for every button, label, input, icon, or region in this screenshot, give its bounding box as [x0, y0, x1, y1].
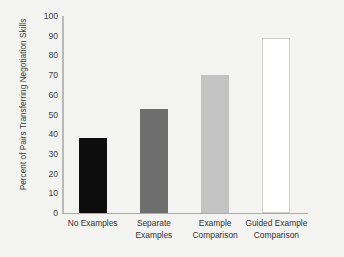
y-tick-label: 0 [34, 208, 58, 218]
bar [79, 138, 107, 213]
bar-chart: Percent of Pairs Transferring Negotiatio… [0, 0, 344, 257]
x-category-label-line: Comparison [240, 230, 313, 242]
y-tick-label: 100 [34, 11, 58, 21]
plot-area [62, 16, 307, 213]
bar [201, 75, 229, 213]
y-tick-label: 10 [34, 188, 58, 198]
y-tick-label: 20 [34, 169, 58, 179]
y-axis-tick-labels: 0102030405060708090100 [32, 0, 58, 257]
y-tick-label: 50 [34, 110, 58, 120]
y-tick-label: 90 [34, 31, 58, 41]
x-category-label-line: Guided Example [240, 218, 313, 230]
y-tick-label: 40 [34, 129, 58, 139]
x-category-label: Guided ExampleComparison [240, 218, 313, 241]
y-tick-label: 60 [34, 90, 58, 100]
bar [262, 38, 290, 213]
bar [140, 109, 168, 213]
y-tick-label: 80 [34, 50, 58, 60]
y-axis-title: Percent of Pairs Transferring Negotiatio… [19, 0, 28, 210]
y-tick-label: 70 [34, 70, 58, 80]
y-tick-label: 30 [34, 149, 58, 159]
